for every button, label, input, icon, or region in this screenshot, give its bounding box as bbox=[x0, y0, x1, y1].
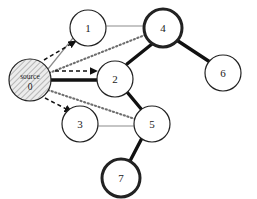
edge-2-5 bbox=[127, 92, 142, 110]
edge-2-4 bbox=[127, 44, 152, 64]
node-label-1: 1 bbox=[85, 22, 91, 34]
node-5[interactable]: 5 bbox=[134, 106, 170, 142]
nodes-layer: source01234567 bbox=[9, 9, 241, 197]
network-diagram: source01234567 bbox=[0, 0, 257, 199]
node-label-4: 4 bbox=[160, 22, 166, 34]
edge-4-6 bbox=[178, 41, 210, 62]
node-label-3: 3 bbox=[77, 118, 83, 130]
node-label-7: 7 bbox=[118, 172, 124, 184]
edge-5-7 bbox=[130, 138, 142, 161]
node-label-0-primary: source bbox=[20, 72, 40, 81]
node-label-5: 5 bbox=[149, 118, 155, 130]
arrow-to-1 bbox=[44, 41, 76, 60]
node-0[interactable]: source0 bbox=[9, 59, 51, 101]
node-label-0-id: 0 bbox=[28, 82, 33, 92]
node-3[interactable]: 3 bbox=[62, 106, 98, 142]
node-7[interactable]: 7 bbox=[102, 159, 140, 197]
node-1[interactable]: 1 bbox=[70, 10, 106, 46]
node-label-6: 6 bbox=[220, 67, 226, 79]
graph-canvas: source01234567 bbox=[0, 0, 257, 199]
dashed-arrows-layer bbox=[44, 41, 97, 112]
node-4[interactable]: 4 bbox=[144, 9, 182, 47]
node-2[interactable]: 2 bbox=[97, 61, 133, 97]
node-6[interactable]: 6 bbox=[205, 55, 241, 91]
node-label-2: 2 bbox=[112, 73, 118, 85]
